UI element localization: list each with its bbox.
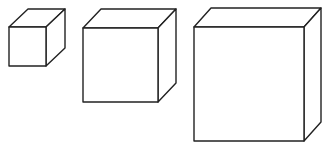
cubes-drawing [0, 0, 333, 150]
cube-front-face [83, 28, 158, 102]
cubes-diagram [0, 0, 333, 150]
cube-side-face [304, 8, 321, 141]
small-cube [9, 9, 65, 66]
medium-cube [83, 9, 176, 102]
cube-front-face [194, 27, 304, 141]
cube-top-face [194, 8, 321, 27]
cube-front-face [9, 27, 46, 66]
large-cube [194, 8, 321, 141]
